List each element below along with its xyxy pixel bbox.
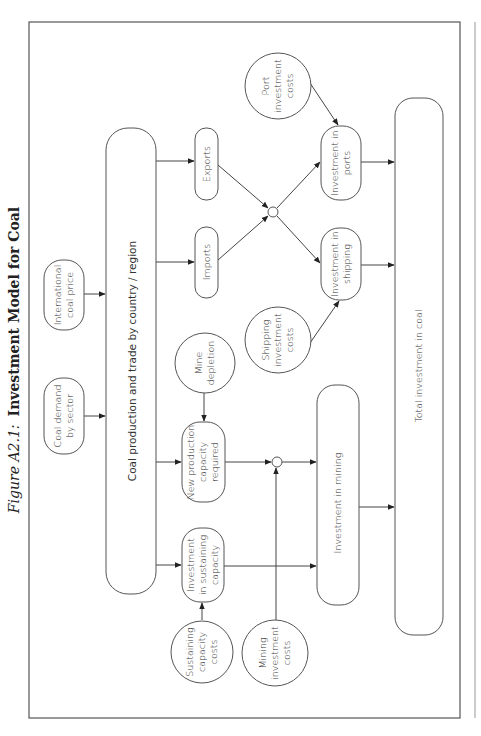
svg-text:Total investment in coal: Total investment in coal (413, 309, 424, 422)
node-invest-ports: Investment in ports (321, 126, 361, 200)
svg-text:Sustaining: Sustaining (184, 627, 195, 677)
edge-exports-junction (218, 165, 268, 208)
figure-title-text: Investment Model for Coal (6, 207, 22, 417)
edge-shipcosts-shipping (310, 301, 339, 343)
figure-title: Figure A2.1: Investment Model for Coal (5, 207, 22, 514)
svg-text:costs: costs (284, 74, 295, 99)
node-shipping-costs: Shipping investment costs (245, 307, 311, 373)
node-intl-coal-price: International coal price (44, 260, 84, 330)
svg-text:depletion: depletion (205, 341, 216, 386)
svg-text:Mine: Mine (193, 351, 204, 374)
svg-text:Investment in: Investment in (329, 130, 340, 196)
node-exports: Exports (195, 128, 218, 200)
node-sustaining-invest: Investment in sustaining capacity (182, 528, 224, 602)
svg-text:Coal demand: Coal demand (52, 385, 63, 448)
svg-text:investment: investment (272, 313, 283, 367)
svg-text:required: required (209, 442, 220, 482)
node-total-investment: Total investment in coal (395, 98, 443, 635)
trade-junction (268, 207, 278, 217)
figure-label: Figure A2.1: (6, 424, 22, 514)
node-mine-depletion: Mine depletion (175, 333, 235, 393)
svg-text:costs: costs (208, 640, 219, 665)
svg-text:Figure A2.1: Investment: Figure A2.1: Investment Model for Coal (5, 207, 22, 514)
svg-text:International: International (52, 265, 63, 326)
svg-text:in sustaining: in sustaining (197, 535, 208, 595)
node-mining-costs: Mining investment costs (242, 620, 308, 686)
svg-text:Mining: Mining (257, 637, 268, 668)
mining-junction (272, 457, 282, 467)
node-imports: Imports (195, 227, 218, 298)
svg-text:Port: Port (260, 76, 271, 95)
node-coal-demand: Coal demand by sector (44, 378, 84, 454)
svg-text:New production: New production (185, 425, 196, 500)
svg-text:investment: investment (269, 626, 280, 680)
node-invest-shipping: Investment in shipping (321, 228, 361, 300)
svg-text:coal price: coal price (64, 272, 75, 318)
edge-junction-ports (277, 162, 320, 208)
svg-text:capacity: capacity (197, 442, 208, 482)
svg-text:Coal production and trade by c: Coal production and trade by country / r… (126, 241, 138, 481)
svg-text:by sector: by sector (64, 394, 75, 438)
svg-text:ports: ports (341, 151, 352, 175)
svg-text:investment: investment (272, 59, 283, 113)
node-sustaining-costs: Sustaining capacity costs (171, 621, 233, 683)
svg-text:Investment in mining: Investment in mining (332, 453, 343, 554)
investment-model-diagram: Figure A2.1: Investment Model for Coal (0, 0, 481, 736)
svg-text:Exports: Exports (201, 146, 212, 182)
svg-text:capacity: capacity (196, 632, 207, 672)
node-invest-mining: Investment in mining (317, 385, 359, 605)
svg-text:costs: costs (281, 641, 292, 666)
edge-imports-junction (218, 216, 268, 260)
edge-portcosts-ports (310, 83, 338, 125)
svg-text:shipping: shipping (341, 244, 352, 284)
svg-text:costs: costs (284, 328, 295, 353)
svg-text:Investment in: Investment in (329, 231, 340, 297)
node-production-trade: Coal production and trade by country / r… (106, 128, 156, 594)
node-new-capacity: New production capacity required (182, 422, 225, 502)
edge-junction-shipping (277, 216, 320, 263)
svg-text:Investment: Investment (185, 538, 196, 592)
svg-text:Imports: Imports (201, 244, 212, 281)
svg-text:Shipping: Shipping (260, 319, 271, 360)
node-port-costs: Port investment costs (245, 53, 311, 119)
svg-text:capacity: capacity (209, 545, 220, 585)
